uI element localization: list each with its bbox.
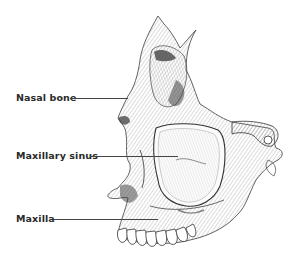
label-nasal-bone: Nasal bone bbox=[16, 92, 77, 103]
label-maxillary-sinus: Maxillary sinus bbox=[16, 150, 98, 161]
label-maxilla: Maxilla bbox=[16, 213, 55, 224]
leader-line-maxillary-sinus bbox=[90, 156, 178, 157]
leader-line-nasal-bone bbox=[70, 98, 128, 99]
leader-line-maxilla bbox=[54, 219, 158, 220]
